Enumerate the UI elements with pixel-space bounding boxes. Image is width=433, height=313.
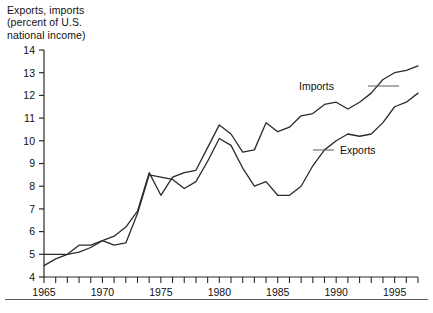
x-tick-label: 1985 [266,286,290,298]
y-tick-label: 14 [23,44,35,56]
annotation-label-exports: Exports [340,144,376,156]
chart-figure: Exports, imports (percent of U.S. nation… [0,0,433,313]
y-tick-label: 11 [24,112,35,124]
y-axis-ticks: 4567891011121314 [23,44,44,283]
line-chart-plot: 4567891011121314 19651970197519801985199… [0,0,433,313]
y-axis-title: Exports, imports (percent of U.S. nation… [7,4,86,41]
x-tick-label: 1980 [208,286,232,298]
footer-divider [5,299,428,300]
y-tick-label: 7 [29,203,35,215]
x-axis-ticks: 1965197019751980198519901995 [32,277,418,298]
x-tick-label: 1965 [32,286,56,298]
x-tick-label: 1990 [325,286,349,298]
series-annotations: ImportsExports [299,80,399,156]
series-line-imports [44,66,418,266]
x-tick-label: 1975 [149,286,173,298]
y-tick-label: 10 [23,135,35,147]
annotation-label-imports: Imports [299,80,334,92]
y-axis-group: 4567891011121314 [23,44,44,283]
y-tick-label: 9 [29,157,35,169]
x-tick-label: 1995 [383,286,407,298]
y-tick-label: 5 [29,248,35,260]
y-tick-label: 6 [29,225,35,237]
y-tick-label: 13 [23,67,35,79]
y-tick-label: 4 [29,271,35,283]
series-line-exports [44,93,418,254]
x-axis-group: 1965197019751980198519901995 [32,277,418,298]
y-tick-label: 12 [23,89,35,101]
series-lines [44,66,418,266]
y-tick-label: 8 [29,180,35,192]
x-tick-label: 1970 [91,286,115,298]
